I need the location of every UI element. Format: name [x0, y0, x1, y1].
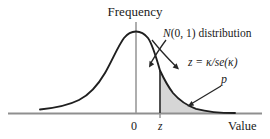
normal-curve	[40, 32, 235, 114]
distribution-annotation-suffix: distribution	[196, 27, 252, 39]
p-callout-arrow	[188, 86, 222, 107]
z-equation-annotation: z = κ/se(κ)	[188, 57, 237, 69]
x-axis-label: Value	[228, 120, 256, 133]
distribution-annotation-symbol: N	[163, 27, 171, 39]
distribution-annotation-args: (0, 1)	[171, 27, 196, 39]
x-tick-label-zero: 0	[131, 120, 137, 132]
p-value-annotation: p	[221, 73, 227, 85]
normal-distribution-figure: Frequency N(0, 1) distribution z = κ/se(…	[0, 0, 270, 139]
chart-title: Frequency	[0, 5, 270, 18]
distribution-annotation: N(0, 1) distribution	[163, 28, 252, 40]
x-tick-label-z: z	[158, 121, 162, 133]
